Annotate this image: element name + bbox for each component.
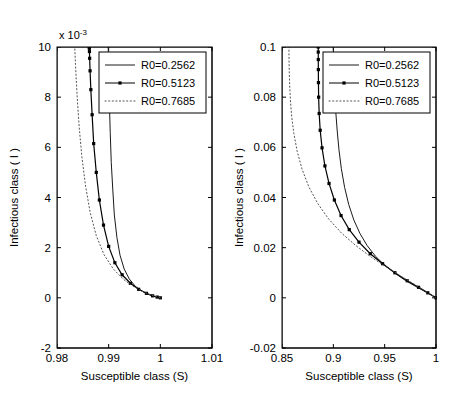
series-marker (113, 261, 116, 264)
y-tick-label: 4 (45, 192, 52, 204)
series-marker (327, 182, 330, 185)
series-marker (102, 223, 105, 226)
series-marker (318, 112, 321, 115)
series-marker (319, 129, 322, 132)
series-marker (333, 198, 336, 201)
legend-label: R0=0.2562 (365, 59, 419, 71)
series-marker (88, 69, 91, 72)
x-tick-label: 1.01 (201, 352, 223, 364)
y-tick-label: 6 (45, 141, 51, 153)
series-marker (339, 214, 342, 217)
y-tick-label: 0.06 (254, 141, 276, 153)
panel-a-plot: 0.980.9911.01-20246810x 10-3Susceptible … (0, 0, 226, 408)
legend-label: R0=0.7685 (365, 95, 419, 107)
y-axis-label: Infectious class ( I ) (233, 148, 245, 247)
y-tick-label: 8 (45, 91, 51, 103)
y-tick-label: 0.08 (254, 91, 276, 103)
panel-b-plot: 0.850.90.951-0.0200.020.040.060.080.1Sus… (225, 0, 451, 408)
figure-root: (a) 0.980.9911.01-20246810x 10-3Suscepti… (0, 0, 451, 408)
series-marker (95, 171, 98, 174)
panel-b: (b) 0.850.90.951-0.0200.020.040.060.080.… (225, 0, 451, 408)
series-marker (369, 252, 372, 255)
x-tick-label: 0.9 (325, 352, 341, 364)
legend-label: R0=0.5123 (141, 77, 195, 89)
series-marker (88, 57, 91, 60)
x-tick-label: 0.95 (373, 352, 395, 364)
series-marker (91, 113, 94, 116)
y-tick-label: 0 (270, 292, 276, 304)
y-axis-label: Infectious class ( I ) (8, 148, 20, 247)
series-marker (357, 241, 360, 244)
y-tick-label: 0 (45, 292, 51, 304)
series-marker (121, 273, 124, 276)
series-marker (92, 142, 95, 145)
y-tick-label: 0.02 (254, 242, 276, 254)
legend-sample-marker (118, 81, 121, 84)
series-marker (317, 50, 320, 53)
series-marker (348, 228, 351, 231)
y-tick-label: 2 (45, 242, 51, 254)
y-tick-label: 10 (38, 41, 51, 53)
series-marker (317, 68, 320, 71)
series-marker (317, 58, 320, 61)
series-marker (317, 81, 320, 84)
series-marker (89, 88, 92, 91)
x-axis-label: Susceptible class (S) (305, 370, 413, 382)
clip-mask-right (437, 0, 451, 408)
y-tick-label: 0.1 (260, 41, 276, 53)
y-tick-label: -0.02 (250, 342, 276, 354)
series-marker (107, 245, 110, 248)
y-tick-label: -2 (41, 342, 51, 354)
series-marker (88, 50, 91, 53)
series-marker (323, 164, 326, 167)
x-tick-label: 0.99 (97, 352, 119, 364)
x-tick-label: 1 (433, 352, 439, 364)
x-axis-label: Susceptible class (S) (81, 370, 189, 382)
series-marker (98, 198, 101, 201)
panel-a: (a) 0.980.9911.01-20246810x 10-3Suscepti… (0, 0, 226, 408)
legend-label: R0=0.2562 (141, 59, 195, 71)
y-tick-label: 0.04 (254, 192, 277, 204)
x-tick-label: 1 (157, 352, 163, 364)
series-marker (317, 96, 320, 99)
legend-label: R0=0.7685 (141, 95, 195, 107)
legend-sample-marker (342, 81, 345, 84)
series-marker (320, 146, 323, 149)
legend-label: R0=0.5123 (365, 77, 419, 89)
